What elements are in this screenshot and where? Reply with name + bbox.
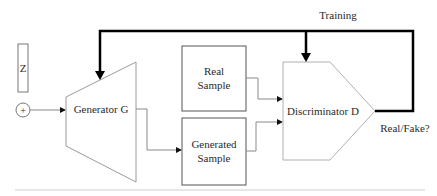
edge-generated-discriminator	[246, 122, 282, 151]
discriminator-node: Discriminator D	[283, 62, 375, 160]
noise-z-label: Z	[20, 62, 27, 74]
edge-training-to-generator	[100, 31, 413, 111]
real-sample-line2: Sample	[198, 79, 231, 91]
training-feedback-loop	[95, 31, 413, 111]
arrow-down-icon	[301, 53, 311, 62]
generated-sample-line2: Sample	[198, 152, 231, 164]
real-sample-line1: Real	[204, 65, 224, 77]
real-fake-label: Real/Fake?	[380, 122, 430, 134]
discriminator-label: Discriminator D	[287, 105, 359, 117]
generated-sample-line1: Generated	[191, 138, 237, 150]
real-sample-node: Real Sample	[182, 46, 246, 111]
generator-label: Generator G	[74, 103, 129, 115]
combine-node: +	[16, 103, 30, 117]
generator-node: Generator G	[66, 62, 136, 182]
edge-generator-generated	[136, 109, 181, 150]
plus-icon: +	[20, 105, 26, 116]
generated-sample-node: Generated Sample	[182, 118, 246, 185]
edge-real-discriminator	[246, 78, 282, 99]
gan-diagram: Z + Generator G Real Sample Generated Sa…	[0, 0, 437, 196]
noise-z-node: Z	[18, 44, 28, 92]
training-label: Training	[319, 9, 357, 21]
